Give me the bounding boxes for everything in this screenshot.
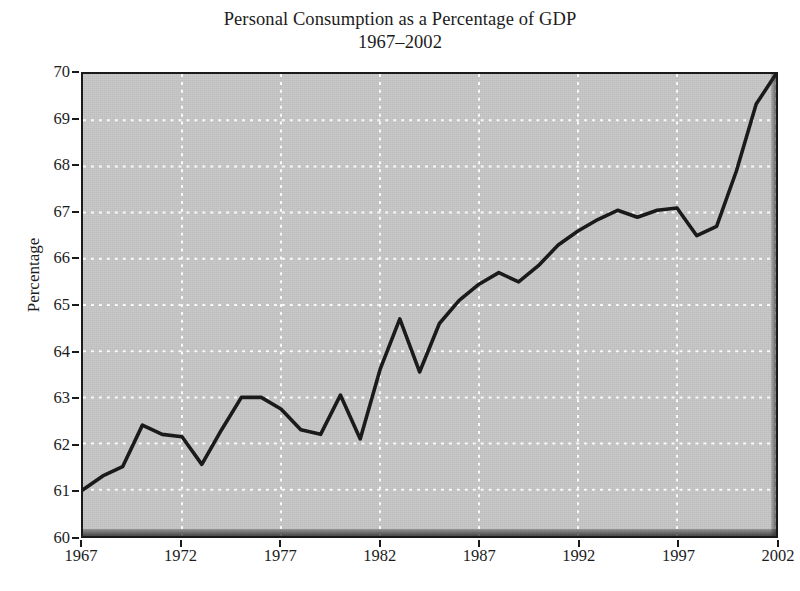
x-tick-mark <box>180 540 182 547</box>
y-tick-mark <box>72 257 79 259</box>
page-title: Personal Consumption as a Percentage of … <box>0 8 800 31</box>
y-tick-mark <box>72 351 79 353</box>
y-tick-mark <box>72 537 79 539</box>
y-axis-tick-labels: 7069686766656463626160 <box>28 72 70 538</box>
x-tick-mark <box>578 540 580 547</box>
y-tick-label: 69 <box>30 109 70 129</box>
chart-figure: Personal Consumption as a Percentage of … <box>0 0 800 591</box>
chart-subtitle: 1967–2002 <box>0 31 800 54</box>
y-tick-label: 61 <box>30 481 70 501</box>
y-tick-mark <box>72 397 79 399</box>
x-tick-mark <box>478 540 480 547</box>
x-tick-label: 1972 <box>141 546 221 566</box>
y-tick-mark <box>72 71 79 73</box>
y-tick-mark <box>72 444 79 446</box>
y-tick-mark <box>72 164 79 166</box>
x-tick-mark <box>677 540 679 547</box>
x-tick-label: 2002 <box>738 546 800 566</box>
x-tick-label: 1982 <box>340 546 420 566</box>
x-tick-mark <box>279 540 281 547</box>
chart-title-block: Personal Consumption as a Percentage of … <box>0 8 800 53</box>
x-tick-mark <box>379 540 381 547</box>
x-tick-label: 1987 <box>439 546 519 566</box>
y-tick-label: 64 <box>30 342 70 362</box>
y-tick-label: 65 <box>30 295 70 315</box>
x-tick-label: 1977 <box>240 546 320 566</box>
y-tick-label: 62 <box>30 435 70 455</box>
y-tick-label: 67 <box>30 202 70 222</box>
y-tick-label: 66 <box>30 248 70 268</box>
y-tick-label: 70 <box>30 62 70 82</box>
y-tick-mark <box>72 211 79 213</box>
x-tick-label: 1992 <box>539 546 619 566</box>
x-axis-tick-marks <box>81 540 778 548</box>
y-tick-mark <box>72 118 79 120</box>
series-line <box>83 74 776 490</box>
plot-wrapper <box>81 72 778 538</box>
x-tick-label: 1997 <box>638 546 718 566</box>
plot-area <box>81 72 778 538</box>
y-tick-label: 68 <box>30 155 70 175</box>
y-tick-mark <box>72 490 79 492</box>
y-tick-label: 60 <box>30 528 70 548</box>
x-tick-label: 1967 <box>41 546 121 566</box>
y-tick-label: 63 <box>30 388 70 408</box>
data-series-line <box>83 74 776 536</box>
x-tick-mark <box>80 540 82 547</box>
x-axis-tick-labels: 19671972197719821987199219972002 <box>81 546 778 572</box>
x-tick-mark <box>777 540 779 547</box>
y-tick-mark <box>72 304 79 306</box>
